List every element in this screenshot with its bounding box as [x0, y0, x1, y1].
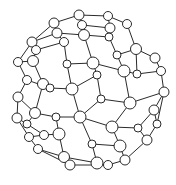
molecule-diagram	[0, 0, 176, 185]
atom-node	[120, 155, 130, 165]
atom-node	[40, 131, 49, 140]
atom-node	[91, 157, 103, 169]
atom-node	[65, 160, 75, 170]
atom-node	[157, 67, 166, 76]
atom-node	[53, 128, 65, 140]
atom-node	[30, 108, 41, 119]
atom-nodes	[12, 10, 169, 170]
atom-node	[106, 121, 118, 133]
atom-node	[97, 95, 105, 103]
atom-node	[46, 84, 54, 92]
atom-node	[23, 76, 32, 85]
atom-node	[153, 120, 161, 128]
atom-node	[142, 135, 152, 145]
atom-node	[131, 44, 142, 55]
atom-node	[114, 140, 126, 152]
atom-node	[23, 120, 31, 128]
atom-node	[134, 124, 142, 132]
atom-node	[150, 53, 160, 63]
atom-node	[34, 145, 43, 154]
atom-node	[25, 133, 34, 142]
atom-node	[87, 57, 99, 69]
atom-node	[105, 23, 115, 33]
atom-node	[49, 18, 59, 28]
atom-node	[28, 56, 39, 67]
atom-node	[124, 97, 136, 109]
atom-node	[104, 161, 113, 170]
atom-node	[118, 65, 130, 77]
atom-node	[149, 105, 159, 115]
atom-node	[74, 10, 84, 20]
atom-node	[113, 51, 121, 59]
atom-node	[52, 113, 60, 121]
atom-node	[104, 12, 113, 21]
atom-node	[74, 111, 86, 123]
atom-node	[133, 70, 141, 78]
atom-node	[32, 46, 41, 55]
atom-node	[88, 140, 96, 148]
atom-node	[159, 87, 169, 97]
atom-node	[14, 58, 23, 67]
atom-node	[79, 30, 90, 41]
atom-node	[52, 28, 62, 38]
atom-node	[105, 33, 113, 41]
atom-node	[66, 83, 78, 95]
atom-node	[12, 113, 22, 123]
atom-node	[123, 20, 132, 29]
atom-node	[78, 21, 87, 30]
atom-node	[93, 71, 101, 79]
atom-node	[13, 92, 23, 102]
atom-node	[60, 38, 69, 47]
atom-node	[63, 60, 71, 68]
